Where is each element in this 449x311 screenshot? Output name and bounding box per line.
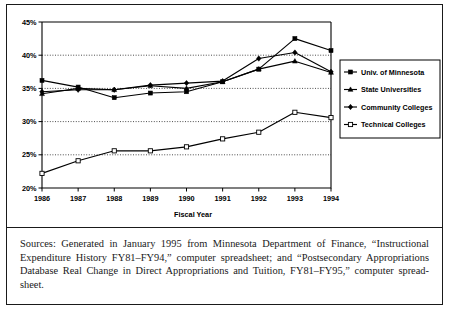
y-tick-label: 25% [22, 150, 37, 159]
figure-container: 20%25%30%35%40%45% 198619871988198919901… [6, 4, 443, 305]
x-axis-title: Fiscal Year [174, 210, 212, 219]
data-point-marker [184, 80, 189, 85]
data-series [40, 110, 333, 175]
x-tick-label: 1988 [106, 194, 122, 203]
data-point-marker [184, 145, 188, 149]
data-point-marker [293, 50, 298, 55]
data-point-marker [329, 49, 333, 53]
data-point-marker [293, 37, 297, 41]
data-point-marker [256, 56, 261, 61]
sources-section: Sources: Generated in January 1995 from … [7, 228, 442, 304]
x-tick-label: 1994 [323, 194, 340, 203]
axis-frame [39, 22, 332, 192]
x-tick-label: 1993 [287, 194, 303, 203]
line-chart: 20%25%30%35%40%45% 198619871988198919901… [7, 5, 444, 227]
legend-label: Univ. of Minnesota [361, 68, 425, 77]
legend-label: Community Colleges [361, 103, 433, 112]
grid-lines [42, 55, 331, 155]
x-tick-label: 1990 [178, 194, 194, 203]
data-point-marker [112, 149, 116, 153]
x-axis-tick-labels: 198619871988198919901991199219931994 [34, 194, 340, 203]
series-line [42, 112, 331, 173]
chart-legend: Univ. of MinnesotaState UniversitiesComm… [340, 60, 440, 138]
data-point-marker [40, 78, 44, 82]
y-tick-label: 20% [22, 184, 37, 193]
data-point-marker [112, 96, 116, 100]
chart-panel: 20%25%30%35%40%45% 198619871988198919901… [7, 5, 442, 227]
legend-label: Technical Colleges [361, 120, 426, 129]
sources-text: Sources: Generated in January 1995 from … [20, 237, 429, 291]
y-tick-label: 40% [22, 51, 37, 60]
axis-frame-path [42, 22, 331, 188]
data-point-marker [257, 130, 261, 134]
x-tick-label: 1987 [70, 194, 86, 203]
data-point-marker [148, 149, 152, 153]
data-point-marker [221, 137, 225, 141]
y-axis-tick-labels: 20%25%30%35%40%45% [22, 18, 37, 193]
legend-label: State Universities [361, 85, 421, 94]
x-tick-label: 1989 [142, 194, 158, 203]
y-tick-label: 30% [22, 117, 37, 126]
x-tick-label: 1986 [34, 194, 50, 203]
data-point-marker [293, 110, 297, 114]
data-point-marker [148, 91, 152, 95]
data-point-marker [76, 159, 80, 163]
data-point-marker [40, 171, 44, 175]
data-point-marker [292, 59, 297, 63]
y-tick-label: 35% [22, 84, 37, 93]
data-point-marker [348, 122, 352, 126]
data-point-marker [349, 70, 353, 74]
x-tick-label: 1991 [215, 194, 231, 203]
x-tick-label: 1992 [251, 194, 267, 203]
y-tick-label: 45% [22, 18, 37, 27]
data-point-marker [329, 116, 333, 120]
